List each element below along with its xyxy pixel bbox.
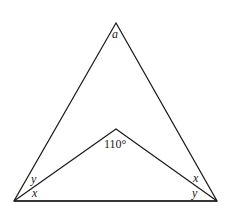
inner-angle-label: 110° (104, 137, 127, 151)
triangle-diagram: a 110° y x x y (0, 0, 230, 217)
right-lower-angle-label: y (191, 186, 198, 200)
outer-triangle (14, 23, 217, 201)
left-upper-angle-label: y (30, 172, 37, 186)
right-upper-angle-label: x (192, 171, 199, 185)
apex-angle-label: a (112, 27, 118, 41)
left-lower-angle-label: x (31, 186, 38, 200)
